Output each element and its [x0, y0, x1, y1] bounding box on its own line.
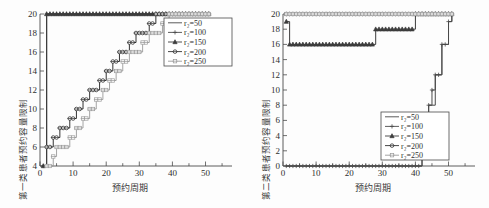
chart-panel-right: 0246810121416182001020304050r₂=50r₂=100r…: [245, 0, 489, 208]
marker-plus: [436, 73, 440, 77]
y-tick-label: 6: [33, 142, 38, 152]
x-tick-label: 0: [38, 168, 43, 178]
x-tick-label: 30: [378, 168, 388, 178]
x-tick-label: 10: [312, 168, 322, 178]
marker-plus: [427, 103, 431, 107]
legend-item-label-200: r₂=200: [184, 48, 206, 57]
legend: r₂=50r₂=100r₂=150r₂=200r₂=250: [381, 112, 449, 160]
y-tick-label: 4: [276, 131, 281, 141]
x-ticks: 01020304050: [38, 162, 222, 179]
figure-sheet: 46810121416182001020304050r₂=50r₂=100r₂=…: [0, 0, 489, 208]
marker-plus: [443, 42, 447, 46]
right-plot-svg: 0246810121416182001020304050r₂=50r₂=100r…: [245, 0, 489, 208]
x-tick-label: 0: [281, 168, 286, 178]
x-tick-label: 50: [201, 168, 211, 178]
legend-item-label-250: r₂=250: [401, 151, 423, 160]
y-tick-label: 8: [33, 123, 38, 133]
legend-item-label-150: r₂=150: [401, 132, 423, 141]
x-tick-label: 40: [168, 168, 178, 178]
y-tick-label: 4: [33, 161, 38, 171]
x-tick-label: 10: [69, 168, 79, 178]
legend-item-label-150: r₂=150: [184, 38, 206, 47]
left-plot-svg: 46810121416182001020304050r₂=50r₂=100r₂=…: [0, 0, 244, 208]
series-5: [284, 12, 454, 15]
y-tick-label: 0: [276, 161, 281, 171]
legend-item-label-50: r₂=50: [184, 19, 202, 28]
x-tick-label: 20: [345, 168, 355, 178]
left-x-axis-label: 预约周期: [8, 181, 252, 194]
x-ticks: 01020304050: [281, 162, 465, 179]
y-tick-label: 2: [276, 146, 281, 156]
left-y-axis-label: 第一类患者预约容量限制: [16, 0, 32, 200]
series-line: [286, 14, 452, 44]
marker-plus: [446, 20, 450, 24]
x-tick-label: 30: [135, 168, 145, 178]
y-tick-label: 6: [276, 115, 281, 125]
legend-item-label-100: r₂=100: [401, 122, 423, 131]
x-tick-label: 20: [102, 168, 112, 178]
series-3: [284, 12, 454, 46]
x-tick-label: 50: [444, 168, 454, 178]
marker-plus: [430, 88, 434, 92]
legend: r₂=50r₂=100r₂=150r₂=200r₂=250: [164, 18, 232, 66]
right-y-axis-label: 第二类患者预约容量限制: [259, 0, 275, 200]
legend-item-label-200: r₂=200: [401, 142, 423, 151]
legend-item-label-50: r₂=50: [401, 113, 419, 122]
legend-item-label-100: r₂=100: [184, 28, 206, 37]
chart-panel-left: 46810121416182001020304050r₂=50r₂=100r₂=…: [0, 0, 244, 208]
y-tick-label: 8: [276, 100, 281, 110]
x-tick-label: 40: [411, 168, 421, 178]
legend-item-label-250: r₂=250: [184, 57, 206, 66]
right-x-axis-label: 预约周期: [251, 181, 489, 194]
